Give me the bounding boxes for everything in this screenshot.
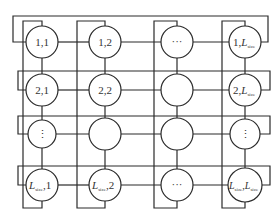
node-Lsize-ellipsis: ··· [161, 169, 193, 201]
node-1-2: 1,2 [89, 26, 121, 58]
node-label: 1,1 [35, 36, 49, 48]
ellipsis-label: ··· [172, 178, 183, 190]
node-1-Lsize: 1,Lsize [229, 26, 261, 58]
node-2-Lsize: 2,Lsize [229, 74, 261, 106]
node-3-4-vellipsis: ⋮ [230, 119, 260, 149]
node-label: 2,2 [98, 84, 112, 96]
node-2-1: 2,1 [26, 74, 58, 106]
node-3-2-empty [89, 118, 121, 150]
node-1-ellipsis: ··· [161, 26, 193, 58]
node-2-2: 2,2 [89, 74, 121, 106]
node-Lsize-Lsize: Lsize,Lsize [228, 168, 262, 202]
node-2-empty [161, 74, 193, 106]
ellipsis-label: ··· [172, 35, 183, 47]
node-label: 2,1 [35, 84, 49, 96]
node-1-1: 1,1 [26, 26, 58, 58]
node-3-3-empty [161, 118, 193, 150]
row-links [56, 42, 230, 185]
node-3-1-vellipsis: ⋮ [28, 120, 56, 148]
vertical-ellipsis-label: ⋮ [240, 128, 251, 140]
node-label: 1,2 [98, 36, 112, 48]
node-Lsize-1: Lsize,1 [26, 169, 58, 201]
vertical-ellipsis-label: ⋮ [37, 128, 48, 140]
torus-grid-diagram: 1,1 1,2 ··· 1,Lsize 2,1 2,2 2,Lsize ⋮ ⋮ [0, 0, 280, 223]
column-links [42, 58, 245, 169]
node-Lsize-2: Lsize,2 [89, 169, 121, 201]
